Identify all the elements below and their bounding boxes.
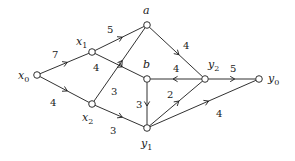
node-label-a: a [143, 4, 150, 17]
edge-x1-b [95, 53, 144, 77]
edge-weight-label: 3 [111, 86, 117, 97]
node-label-y0: y0 [267, 72, 279, 87]
node-label-y1: y1 [140, 137, 152, 152]
graph-svg: 745433445324 x0x1x2aby2y0y1 [0, 0, 295, 161]
node-y1 [144, 125, 151, 132]
node-label-x0: x0 [18, 69, 29, 84]
edge-weight-label: 3 [110, 125, 116, 136]
edge-weight-label: 5 [107, 24, 113, 35]
edge-weight-label: 4 [183, 40, 189, 51]
edge-weight-label: 4 [50, 97, 56, 108]
node-y0 [256, 76, 263, 83]
graph-diagram: 745433445324 x0x1x2aby2y0y1 [0, 0, 295, 161]
edge-weight-label: 2 [167, 89, 173, 100]
edge-y1-y0 [150, 80, 256, 126]
node-label-x2: x2 [82, 111, 93, 126]
nodes-layer [34, 22, 263, 132]
edge-weight-label: 3 [136, 99, 142, 110]
node-b [144, 76, 151, 83]
node-x2 [89, 101, 96, 108]
edge-weight-label: 4 [93, 62, 99, 73]
node-x1 [89, 49, 96, 56]
edge-weight-label: 4 [216, 108, 222, 119]
edge-y1-y2 [150, 81, 203, 126]
node-label-b: b [143, 58, 150, 71]
node-x0 [34, 72, 41, 79]
edge-x0-x1 [40, 53, 89, 73]
edge-weight-label: 7 [52, 49, 58, 60]
edge-weight-label: 4 [173, 63, 179, 74]
node-label-x1: x1 [76, 35, 87, 50]
edge-x0-x2 [40, 77, 89, 103]
node-y2 [202, 76, 209, 83]
edge-x1-a [95, 26, 144, 50]
node-label-y2: y2 [207, 58, 219, 73]
edge-weight-label: 5 [230, 63, 236, 74]
node-a [144, 22, 151, 29]
